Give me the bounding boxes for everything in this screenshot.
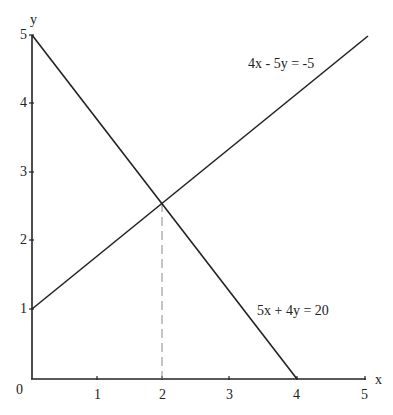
y-tick-label-3: 3 xyxy=(20,165,27,179)
x-tick-label-5: 5 xyxy=(361,388,368,402)
x-tick-label-3: 3 xyxy=(226,388,233,402)
line-5x-4y xyxy=(32,35,297,379)
y-tick-label-1: 1 xyxy=(20,302,27,316)
x-tick-label-1: 1 xyxy=(94,388,101,402)
line1-equation-label: 4x - 5y = -5 xyxy=(248,57,314,71)
chart-canvas xyxy=(0,0,393,415)
y-tick-label-2: 2 xyxy=(20,233,27,247)
y-axis-label: y xyxy=(30,13,37,27)
x-tick-label-4: 4 xyxy=(293,388,300,402)
line2-equation-label: 5x + 4y = 20 xyxy=(257,304,329,318)
line-4x-5y xyxy=(32,36,368,309)
x-axis-label: x xyxy=(375,373,382,387)
x-tick-label-2: 2 xyxy=(159,388,166,402)
origin-label: 0 xyxy=(16,383,23,397)
y-tick-label-4: 4 xyxy=(20,96,27,110)
y-tick-label-5: 5 xyxy=(20,28,27,42)
